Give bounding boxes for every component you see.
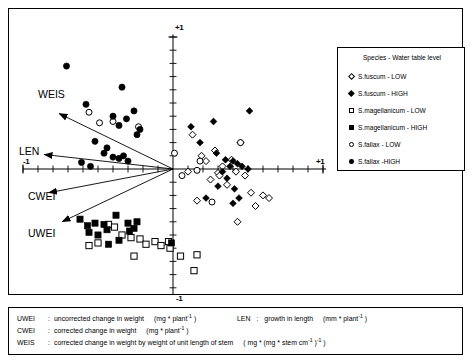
data-point-s-fuscum-high — [231, 185, 238, 192]
data-point-s-fuscum-high — [236, 195, 243, 202]
footnote-line-len: LEN:growth in length(mm * plant-1 ) — [237, 313, 367, 322]
footnote-panel: UWEI:uncorrected change in weight(mg * p… — [8, 307, 463, 355]
data-point-s-fallax-low — [97, 120, 103, 126]
data-point-s-fuscum-high — [224, 175, 231, 182]
footnote-desc: corrected change in weight by weight of … — [54, 339, 233, 346]
footnote-unit-post: ) — [192, 315, 196, 322]
vector-label-cwei: CWEI — [28, 190, 55, 202]
y-axis-max-label: +1 — [175, 23, 184, 32]
footnote-desc: uncorrected change in weight — [54, 315, 144, 322]
data-point-s-fuscum-high — [188, 123, 195, 130]
data-point-s-magellanicum-low — [194, 252, 200, 258]
data-point-s-magellanicum-low — [95, 240, 101, 246]
data-point-s-magellanicum-high — [104, 227, 110, 233]
data-point-s-fallax-high — [123, 116, 129, 122]
marker-square-fill-icon — [345, 122, 358, 133]
legend: Species - Water table level S.fuscum - L… — [337, 47, 465, 171]
legend-item-s-fallax-high: S.fallax -HIGH — [345, 155, 466, 168]
data-point-s-magellanicum-high — [95, 232, 101, 238]
data-point-s-fallax-high — [120, 153, 126, 159]
data-point-s-fuscum-low — [203, 158, 210, 165]
data-point-s-fallax-low — [86, 109, 92, 115]
data-point-s-fuscum-low — [242, 172, 249, 179]
footnote-key: WEIS — [17, 339, 48, 346]
footnote-line-uwei: UWEI:uncorrected change in weight(mg * p… — [17, 313, 196, 322]
data-point-s-magellanicum-low — [152, 239, 158, 245]
footnote-unit-post: ) — [321, 339, 325, 346]
data-point-s-fuscum-low — [234, 218, 241, 225]
data-point-s-fallax-low — [172, 150, 178, 156]
data-point-s-fuscum-low — [248, 189, 255, 196]
data-point-s-fuscum-high — [197, 139, 204, 146]
data-point-s-magellanicum-low — [86, 242, 92, 248]
footnote-key: UWEI — [17, 315, 48, 322]
data-point-s-magellanicum-low — [191, 268, 197, 274]
legend-item-s-magellanicum-low: S.magellanicum - LOW — [345, 104, 466, 117]
data-point-s-fuscum-high — [203, 195, 210, 202]
data-point-s-magellanicum-low — [177, 253, 183, 259]
legend-item-s-fallax-low: S.fallax - LOW — [345, 138, 466, 151]
legend-item-s-fuscum-high: S.fuscum - HIGH — [345, 87, 466, 100]
data-point-s-fuscum-low — [224, 181, 231, 188]
data-point-s-fallax-high — [104, 145, 110, 151]
legend-item-label: S.magellanicum - LOW — [358, 105, 426, 116]
legend-item-s-magellanicum-high: S.magellanicum - HIGH — [345, 121, 466, 134]
biplot-vector-cwei — [49, 169, 174, 193]
footnote-unit-post: ) — [363, 315, 367, 322]
data-point-s-fallax-high — [131, 108, 137, 114]
marker-circle-open-icon — [345, 139, 358, 150]
data-point-s-fuscum-low — [194, 197, 201, 204]
data-point-s-fallax-high — [119, 84, 125, 90]
data-point-s-magellanicum-high — [116, 237, 122, 243]
data-point-s-magellanicum-low — [137, 236, 143, 242]
data-point-s-fallax-high — [125, 158, 131, 164]
data-point-s-magellanicum-high — [126, 228, 132, 234]
data-point-s-magellanicum-low — [158, 242, 164, 248]
data-point-s-magellanicum-low — [143, 241, 149, 247]
footnote-desc: growth in length — [264, 315, 313, 322]
legend-item-s-fuscum-low: S.fuscum - LOW — [345, 70, 466, 83]
footnote-unit-pre: (mg * plant — [146, 327, 179, 334]
vector-label-uwei: UWEI — [28, 227, 55, 239]
legend-item-label: S.fuscum - HIGH — [358, 88, 408, 99]
x-axis-max-label: +1 — [316, 157, 325, 166]
data-point-s-fuscum-low — [252, 202, 259, 209]
data-point-s-fallax-low — [194, 167, 200, 173]
data-point-s-fuscum-high — [230, 200, 237, 207]
data-point-s-fuscum-high — [210, 118, 217, 125]
data-point-s-magellanicum-high — [86, 229, 92, 235]
data-point-s-fuscum-high — [222, 156, 229, 163]
data-point-s-fallax-low — [197, 158, 203, 164]
data-point-s-magellanicum-high — [92, 220, 98, 226]
data-point-s-fallax-high — [92, 138, 98, 144]
data-point-s-fallax-high — [116, 122, 122, 128]
data-point-s-fallax-low — [238, 140, 244, 146]
footnote-sep: : — [256, 315, 258, 322]
data-point-s-fallax-high — [63, 63, 69, 69]
y-axis-min-label: -1 — [176, 294, 183, 303]
data-point-s-fallax-high — [83, 101, 89, 107]
marker-square-open-icon — [345, 105, 358, 116]
data-point-s-magellanicum-low — [131, 253, 137, 259]
footnote-unit-pre: ( mg * (mg * stem cm — [243, 339, 308, 346]
footnote-unit-pre: (mg * plant — [154, 315, 187, 322]
data-point-s-fuscum-high — [215, 183, 222, 190]
data-point-s-magellanicum-high — [125, 220, 131, 226]
data-point-s-fallax-high — [110, 113, 116, 119]
data-point-s-fuscum-low — [207, 176, 214, 183]
footnote-unit-pre: (mm * plant — [323, 315, 358, 322]
footnote-line-weis: WEIS:corrected change in weight by weigh… — [17, 337, 326, 346]
data-point-s-fallax-high — [78, 159, 84, 165]
data-point-s-magellanicum-high — [134, 219, 140, 225]
data-point-s-magellanicum-high — [77, 216, 83, 222]
data-point-s-fallax-high — [110, 154, 116, 160]
marker-diamond-open-icon — [345, 71, 358, 82]
footnote-key: CWEI — [17, 327, 48, 334]
data-point-s-fuscum-high — [245, 166, 252, 173]
data-point-s-fallax-low — [179, 173, 185, 179]
data-point-s-magellanicum-high — [105, 241, 111, 247]
data-point-s-magellanicum-low — [111, 224, 117, 230]
footnote-desc: corrected change in weight — [54, 327, 136, 334]
footnote-key: LEN — [237, 315, 250, 322]
marker-diamond-fill-icon — [345, 88, 358, 99]
